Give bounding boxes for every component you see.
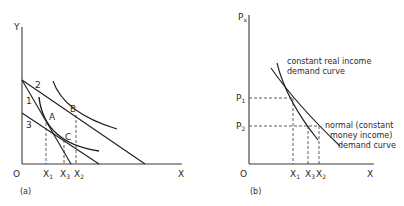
normal-label-line2: money income) [330, 131, 392, 140]
normal-label-line3: demand curve [338, 141, 396, 150]
line-label-2: 2 [35, 80, 41, 90]
y-tick-p1: P1 [236, 93, 245, 104]
x-axis-label: X [178, 169, 184, 179]
line-label-3: 3 [26, 120, 32, 130]
point-label-c: C [65, 132, 71, 142]
indifference-curve-high [53, 81, 117, 129]
panel-b: Px X O P1 P2 X1 X3 X2 constant real inco… [236, 12, 396, 196]
constant-real-label-line1: constant real income [287, 57, 371, 66]
x-tick-x1: X1 [290, 169, 300, 180]
panel-a-caption: (a) [20, 187, 31, 196]
budget-line-3 [22, 113, 99, 164]
diagram-canvas: Y X O 2 1 3 A B C X1 X3 X2 (a) Px X O [0, 0, 404, 206]
x-tick-x1: X1 [43, 169, 53, 180]
origin-label: O [13, 169, 20, 179]
x-tick-x3: X3 [305, 169, 315, 180]
x-tick-x3: X3 [60, 169, 70, 180]
point-label-b: B [70, 104, 76, 114]
x-tick-x2: X2 [74, 169, 84, 180]
constant-real-label-line2: demand curve [287, 67, 345, 76]
x-tick-x2: X2 [316, 169, 326, 180]
normal-label-line1: normal (constant [325, 121, 393, 130]
panel-a: Y X O 2 1 3 A B C X1 X3 X2 (a) [13, 22, 184, 196]
y-axis-label: Y [13, 22, 20, 32]
y-axis-label: Px [238, 12, 247, 23]
budget-line-2 [22, 80, 145, 164]
panel-b-caption: (b) [250, 187, 261, 196]
point-label-a: A [49, 112, 56, 122]
x-axis-label: X [367, 169, 373, 179]
y-tick-p2: P2 [236, 121, 245, 132]
line-label-1: 1 [26, 96, 32, 106]
origin-label: O [240, 169, 247, 179]
